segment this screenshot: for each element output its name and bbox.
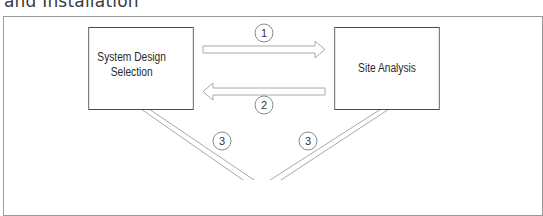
step-1-label: 1 <box>261 27 267 39</box>
diagonal-link-right <box>267 109 389 180</box>
system-design-selection-label-line1: System Design <box>97 50 166 65</box>
step-3-badge-right: 3 <box>299 132 317 150</box>
step-3-badge-left: 3 <box>213 132 231 150</box>
system-design-selection-label-line2: Selection <box>97 65 166 80</box>
diagonal-link-left <box>141 109 257 180</box>
site-analysis-label: Site Analysis <box>358 61 416 76</box>
system-design-selection-box: System Design Selection <box>88 27 193 110</box>
step-3-label-right: 3 <box>305 135 311 147</box>
step-2-badge: 2 <box>255 96 273 114</box>
step-3-label-left: 3 <box>219 135 225 147</box>
step-1-badge: 1 <box>255 24 273 42</box>
step-2-label: 2 <box>261 99 267 111</box>
site-analysis-box: Site Analysis <box>334 27 439 110</box>
arrow-right-icon <box>203 41 325 58</box>
